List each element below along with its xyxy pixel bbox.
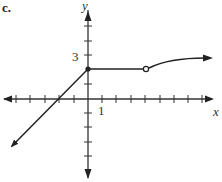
graph: x 1 y 3 — [0, 0, 222, 182]
open-point — [143, 66, 148, 71]
y-axis: y 3 — [72, 0, 92, 179]
y-axis-label: y — [80, 0, 88, 13]
linear-piece — [12, 69, 88, 146]
curve-arrow-icon — [203, 55, 213, 62]
x-tick-label-1: 1 — [98, 103, 105, 118]
closed-point — [85, 66, 90, 71]
y-tick-label-3: 3 — [72, 49, 79, 64]
x-axis: x 1 — [3, 95, 219, 119]
curve-piece — [149, 58, 205, 68]
x-axis-label: x — [212, 104, 219, 119]
